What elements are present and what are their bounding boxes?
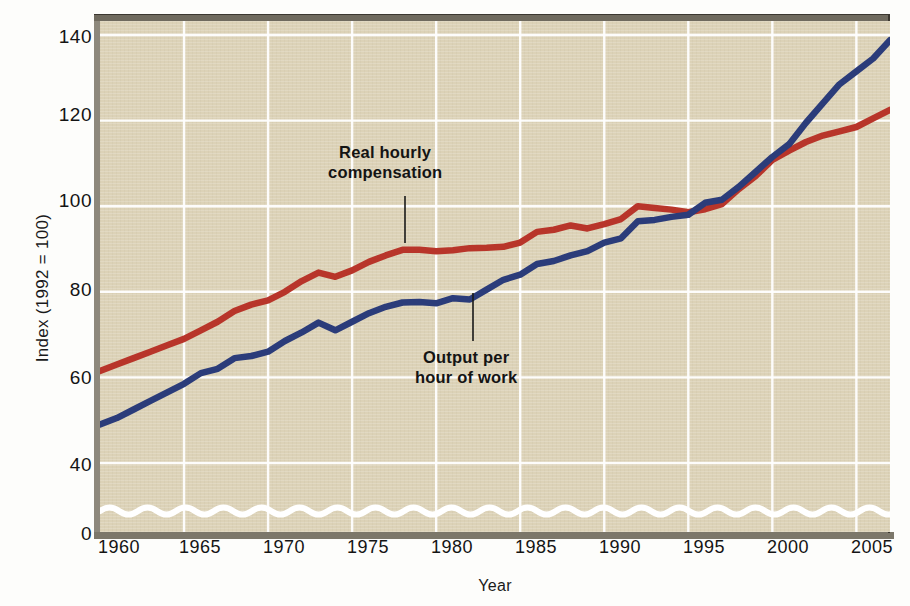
- annotation-compensation-line1: Real hourly: [328, 142, 442, 162]
- x-tick-label-1995: 1995: [683, 538, 725, 556]
- y-tick-label-140: 140: [22, 27, 92, 46]
- y-tick-label-100: 100: [22, 191, 92, 210]
- plot-area: [100, 21, 890, 532]
- y-tick-label-60: 60: [22, 368, 92, 387]
- x-tick-label-2005: 2005: [851, 538, 893, 556]
- annotation-output-per-hour: Output per hour of work: [415, 347, 517, 387]
- x-tick-label-1985: 1985: [515, 538, 557, 556]
- x-tick-label-1960: 1960: [98, 538, 140, 556]
- x-axis-title: Year: [100, 577, 890, 595]
- x-tick-label-1980: 1980: [431, 538, 473, 556]
- chart-plot-svg: [100, 21, 890, 532]
- chart-figure: Index (1992 = 100) 140 120 100 80 60 40 …: [0, 0, 910, 606]
- annotation-output-line2: hour of work: [415, 367, 517, 387]
- x-tick-label-1975: 1975: [347, 538, 389, 556]
- y-tick-label-80: 80: [22, 280, 92, 299]
- annotation-real-hourly-compensation: Real hourly compensation: [328, 142, 442, 182]
- y-tick-label-0: 0: [22, 524, 92, 543]
- x-tick-label-2000: 2000: [767, 538, 809, 556]
- annotation-output-line1: Output per: [415, 347, 517, 367]
- annotation-compensation-line2: compensation: [328, 162, 442, 182]
- y-tick-label-40: 40: [22, 455, 92, 474]
- x-tick-label-1965: 1965: [179, 538, 221, 556]
- x-tick-label-1990: 1990: [599, 538, 641, 556]
- y-tick-label-120: 120: [22, 105, 92, 124]
- x-tick-label-1970: 1970: [263, 538, 305, 556]
